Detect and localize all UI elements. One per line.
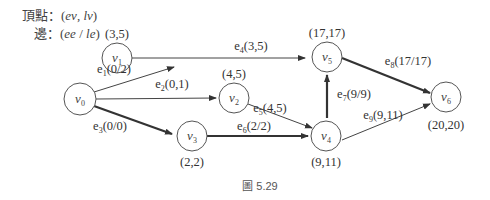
edge-e8-label: e8(17/17) [385, 54, 431, 70]
node-v4-times: (9,11) [311, 155, 341, 169]
edge-e2 [96, 98, 216, 99]
edge-e1-label: e1(0/2) [97, 62, 131, 78]
node-v3: v3 [177, 121, 207, 151]
edge-e9-label: e9(9,11) [363, 108, 402, 124]
node-v3-times: (2,2) [180, 155, 204, 169]
node-v6-times: (20,20) [428, 118, 464, 132]
node-v5-times: (17,17) [309, 26, 345, 40]
node-v2-times: (4,5) [222, 67, 246, 81]
edge-e4-label: e4(3,5) [234, 39, 268, 55]
node-v1-times: (3,5) [105, 27, 129, 41]
edge-e5-label: e5(4,5) [253, 101, 287, 117]
node-v6: v6 [431, 82, 461, 112]
node-v2: v2 [219, 83, 249, 113]
edge-e3-label: e3(0/0) [93, 119, 127, 135]
edge-e7-label: e7(9/9) [337, 87, 371, 103]
edge-e2-label: e2(0,1) [155, 77, 189, 93]
figure-caption: 圖 5.29 [242, 180, 277, 192]
edge-e6-label: e6(2/2) [237, 119, 271, 135]
node-v4: v4 [311, 121, 341, 151]
node-v5: v5 [312, 42, 342, 72]
node-v0: v0 [64, 83, 96, 115]
activity-network-diagram: v0 v1 v2 v3 v4 v5 v6 (3,5) (4,5) (2,2) (… [0, 0, 490, 200]
